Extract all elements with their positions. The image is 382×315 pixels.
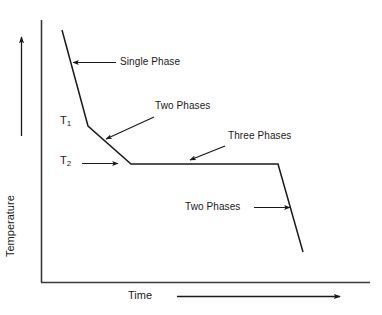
t2-label-sub: 2 [67, 159, 72, 168]
annotation-two-phases-lower: Two Phases [185, 202, 240, 212]
diagram-canvas [0, 0, 382, 315]
annotation-single-phase: Single Phase [120, 57, 180, 67]
y-axis-title: Temperature [5, 195, 16, 257]
cooling-curve-line [62, 30, 303, 252]
x-axis-title: Time [128, 290, 152, 301]
annotation-three-phases: Three Phases [228, 131, 291, 141]
three-phases-leader-arrow [190, 146, 225, 160]
t1-label-main: T [60, 114, 67, 126]
t1-label: T1 [60, 115, 71, 126]
annotation-two-phases-upper: Two Phases [155, 101, 210, 111]
t2-label: T2 [60, 155, 71, 166]
cooling-curve-figure: Temperature Time T1 T2 Single Phase Two … [0, 0, 382, 315]
two-phases-upper-leader-arrow [106, 117, 154, 139]
t1-label-sub: 1 [67, 119, 72, 128]
t2-label-main: T [60, 154, 67, 166]
